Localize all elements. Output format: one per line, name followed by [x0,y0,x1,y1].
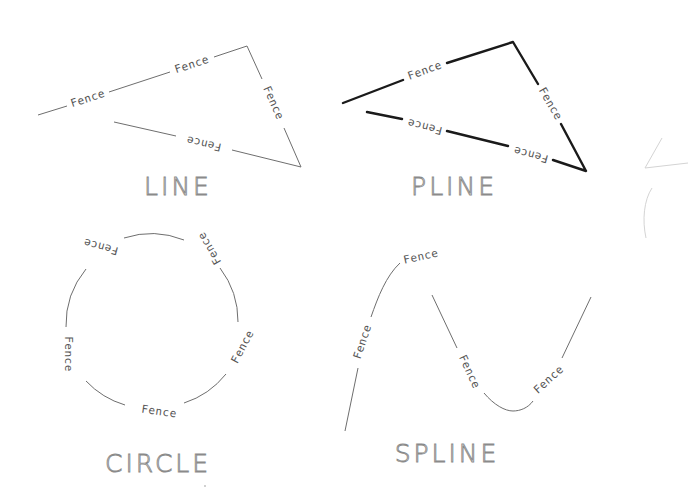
spline-curve [432,295,591,411]
fence-label: Fence [185,133,223,154]
fence-label: Fence [69,87,107,110]
fence-label: Fence [531,363,566,396]
fence-label: Fence [141,403,178,421]
pline-title: PLINE [411,172,497,201]
fence-label: Fence [406,58,444,82]
fence-label: Fence [62,336,75,372]
fence-label: Fence [82,236,120,258]
stray-dot [204,485,206,487]
fence-label: Fence [512,144,550,166]
fence-label: Fence [456,353,483,391]
circle-panel: Fence Fence Fence Fence Fence CIRCLE [62,230,257,478]
fence-label: Fence [402,246,440,266]
line-panel: Fence Fence Fence Fence LINE [38,46,301,201]
fence-label: Fence [406,116,444,137]
drawing-canvas: Fence Fence Fence Fence LINE Fence Fence… [0,0,690,497]
spline-title: SPLINE [395,439,500,468]
pline-panel: Fence Fence Fence Fence PLINE [343,42,586,201]
fence-label: Fence [195,230,224,267]
circle-title: CIRCLE [105,449,211,478]
spline-panel: Fence Fence Fence Fence SPLINE [345,246,591,468]
fence-label: Fence [260,84,286,122]
line-title: LINE [144,172,212,201]
pencil-sketch-marks [644,138,688,238]
fence-label: Fence [351,323,374,361]
fence-label: Fence [173,53,211,76]
fence-label: Fence [228,328,256,366]
fence-label: Fence [536,85,565,122]
